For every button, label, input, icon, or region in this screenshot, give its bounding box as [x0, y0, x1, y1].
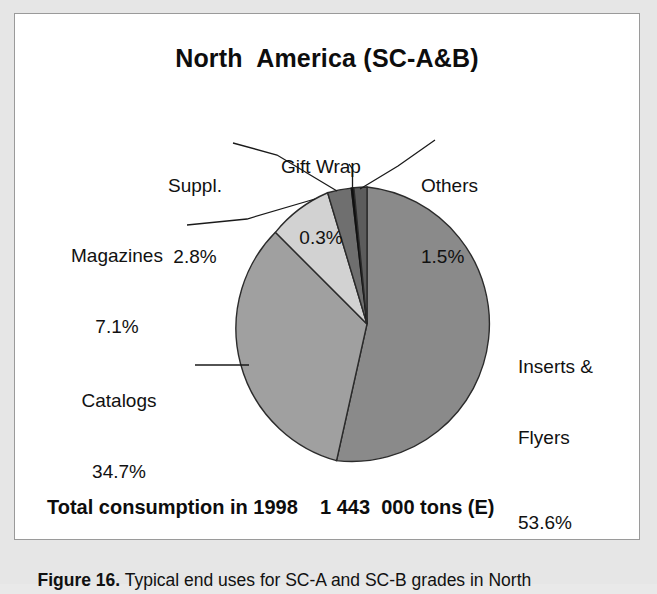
chart-panel: North America (SC-A&B) Gift Wr [14, 13, 640, 540]
pie-label-others-pct: 1.5% [421, 245, 551, 269]
pie-label-others-name: Others [421, 174, 551, 198]
pie-label-gift-wrap-name: Gift Wrap [251, 155, 391, 179]
figure-caption-number: Figure 16. [37, 570, 120, 590]
pie-label-others: Others 1.5% [421, 126, 551, 316]
pie-label-suppl-name: Suppl. [137, 174, 253, 198]
pie-label-gift-wrap-pct: 0.3% [251, 226, 391, 250]
total-consumption-label: Total consumption in 1998 1 443 000 tons… [47, 496, 495, 519]
pie-label-magazines-pct: 7.1% [49, 315, 185, 339]
figure-caption-text: Typical end uses for SC-A and SC-B grade… [120, 570, 531, 590]
pie-label-inserts-flyers-name-line1: Inserts & [518, 355, 638, 379]
pie-label-inserts-flyers-pct: 53.6% [518, 511, 638, 535]
pie-label-inserts-flyers-name-line2: Flyers [518, 426, 638, 450]
pie-label-catalogs-name: Catalogs [51, 389, 187, 413]
figure-caption: Figure 16. Typical end uses for SC-A and… [18, 549, 648, 594]
pie-label-catalogs-pct: 34.7% [51, 460, 187, 484]
pie-label-gift-wrap: Gift Wrap 0.3% [251, 107, 391, 297]
pie-label-inserts-flyers: Inserts & Flyers 53.6% [518, 307, 638, 582]
pie-label-magazines-name: Magazines [49, 244, 185, 268]
